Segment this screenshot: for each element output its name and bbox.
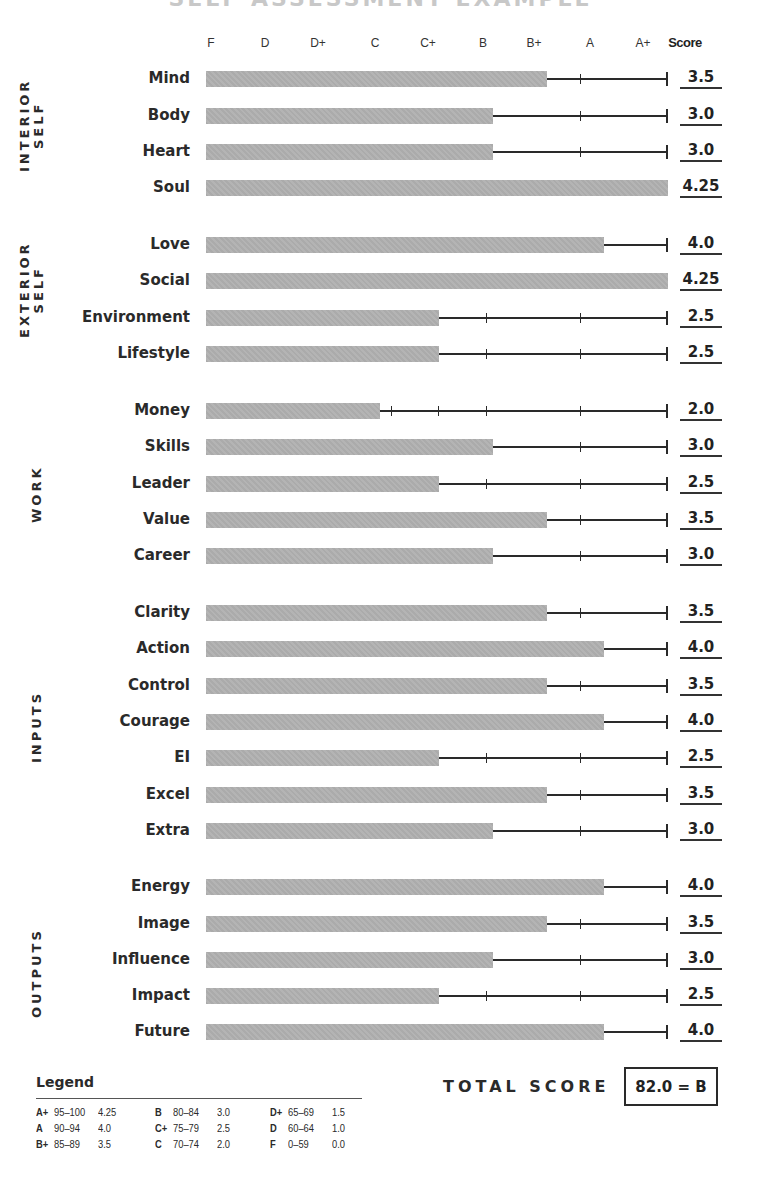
grade-tick (580, 442, 581, 452)
category-label: Value (0, 510, 190, 528)
score-value: 3.0 (680, 950, 722, 970)
legend-grade: F (270, 1138, 276, 1150)
score-bar (206, 476, 439, 492)
grade-tick (486, 349, 487, 359)
track-end-cap (666, 788, 668, 802)
category-label: Control (0, 676, 190, 694)
score-bar (206, 310, 439, 326)
score-bar (206, 714, 604, 730)
score-value: 3.0 (680, 142, 722, 162)
score-value: 2.0 (680, 401, 722, 421)
track-end-cap (666, 989, 668, 1003)
category-label: Excel (0, 785, 190, 803)
score-bar (206, 512, 547, 528)
category-label: Lifestyle (0, 344, 190, 362)
track-end-cap (666, 917, 668, 931)
category-label: Money (0, 401, 190, 419)
score-value: 2.5 (680, 474, 722, 494)
grade-tick (580, 826, 581, 836)
legend-grade: A+ (36, 1106, 48, 1118)
category-label: Influence (0, 950, 190, 968)
grade-header-label: C+ (420, 36, 436, 50)
track-end-cap (666, 824, 668, 838)
grade-tick (580, 790, 581, 800)
total-score-label: TOTAL SCORE (443, 1077, 609, 1096)
grade-tick (580, 313, 581, 323)
score-bar (206, 144, 493, 160)
grade-header-label: A+ (635, 36, 650, 50)
category-label: EI (0, 748, 190, 766)
grade-tick (486, 991, 487, 1001)
score-value: 4.0 (680, 1022, 722, 1042)
grade-tick (580, 608, 581, 618)
grade-header-label: D (261, 36, 270, 50)
grade-header-label: C (371, 36, 380, 50)
score-bar (206, 237, 604, 253)
track-end-cap (666, 1025, 668, 1039)
grade-tick (438, 406, 439, 416)
score-bar (206, 952, 493, 968)
grade-header-label: D+ (310, 36, 326, 50)
legend-points: 1.0 (332, 1122, 345, 1134)
legend-points: 4.0 (98, 1122, 111, 1134)
grade-tick (580, 551, 581, 561)
score-value: 3.5 (680, 510, 722, 530)
score-value: 3.0 (680, 437, 722, 457)
grade-tick (580, 991, 581, 1001)
category-label: Social (0, 271, 190, 289)
grade-tick (486, 753, 487, 763)
score-value: 3.0 (680, 821, 722, 841)
track-end-cap (666, 440, 668, 454)
score-bar (206, 108, 493, 124)
score-value: 4.0 (680, 639, 722, 659)
score-value: 2.5 (680, 748, 722, 768)
score-bar (206, 750, 439, 766)
score-value: 4.0 (680, 877, 722, 897)
legend-points: 0.0 (332, 1138, 345, 1150)
score-bar (206, 678, 547, 694)
score-value: 3.5 (680, 603, 722, 623)
page-title: SELF ASSESSMENT EXAMPLE (0, 0, 761, 11)
score-value: 4.25 (680, 178, 722, 198)
score-value: 4.25 (680, 271, 722, 291)
legend-grade: B+ (36, 1138, 48, 1150)
score-column-header: Score (668, 35, 702, 50)
score-bar (206, 548, 493, 564)
track-end-cap (666, 404, 668, 418)
track-end-cap (666, 715, 668, 729)
score-value: 3.5 (680, 676, 722, 696)
legend-grade: C+ (155, 1122, 167, 1134)
grade-tick (580, 515, 581, 525)
grade-tick (580, 479, 581, 489)
score-value: 2.5 (680, 344, 722, 364)
category-label: Body (0, 106, 190, 124)
legend-range: 85–89 (54, 1138, 80, 1150)
score-value: 3.0 (680, 106, 722, 126)
category-label: Extra (0, 821, 190, 839)
score-bar (206, 71, 547, 87)
legend-points: 2.0 (217, 1138, 230, 1150)
legend-grade: D+ (270, 1106, 282, 1118)
category-label: Heart (0, 142, 190, 160)
grade-tick (486, 406, 487, 416)
score-bar (206, 988, 439, 1004)
group-label-line: OUTPUTS (30, 928, 44, 1018)
grade-tick (580, 406, 581, 416)
category-label: Environment (0, 308, 190, 326)
category-label: Clarity (0, 603, 190, 621)
legend-grade: C (155, 1138, 162, 1150)
track-end-cap (666, 347, 668, 361)
grade-tick (580, 955, 581, 965)
legend-points: 2.5 (217, 1122, 230, 1134)
legend-range: 80–84 (173, 1106, 199, 1118)
track-end-cap (666, 751, 668, 765)
score-value: 4.0 (680, 712, 722, 732)
score-bar (206, 403, 380, 419)
score-bar (206, 916, 547, 932)
grade-tick (580, 74, 581, 84)
track-end-cap (666, 606, 668, 620)
score-bar (206, 439, 493, 455)
legend-grade: A (36, 1122, 43, 1134)
score-value: 3.0 (680, 546, 722, 566)
track-end-cap (666, 953, 668, 967)
